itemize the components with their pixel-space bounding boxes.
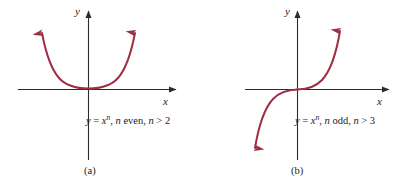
caption-parity: odd,	[330, 115, 354, 126]
panel-b-tag: (b)	[291, 166, 303, 177]
curve-left-branch	[42, 33, 89, 89]
caption-equals: =	[300, 115, 311, 126]
panel-a-plot	[0, 0, 209, 184]
panel-b: y x y = xn, n odd, n > 3 (b)	[209, 0, 418, 184]
power-function-figure: y x y = xn, n even, n > 2 (a) y	[0, 0, 418, 184]
caption-condition: > 3	[359, 115, 375, 126]
panel-a: y x y = xn, n even, n > 2 (a)	[0, 0, 209, 184]
caption-parity: even,	[121, 115, 149, 126]
x-axis-label: x	[377, 96, 382, 107]
panel-a-caption: y = xn, n even, n > 2	[86, 116, 170, 127]
y-axis-label: y	[75, 6, 80, 17]
panel-b-caption: y = xn, n odd, n > 3	[295, 116, 375, 127]
caption-condition: > 2	[154, 115, 170, 126]
panel-b-plot	[209, 0, 418, 184]
curve-upper-branch	[298, 31, 341, 90]
caption-equals: =	[91, 115, 102, 126]
panel-a-tag: (a)	[84, 166, 96, 177]
y-axis-label: y	[285, 6, 290, 17]
curve-right-branch	[89, 33, 136, 89]
x-axis-label: x	[163, 96, 168, 107]
curve-lower-branch	[255, 90, 298, 149]
